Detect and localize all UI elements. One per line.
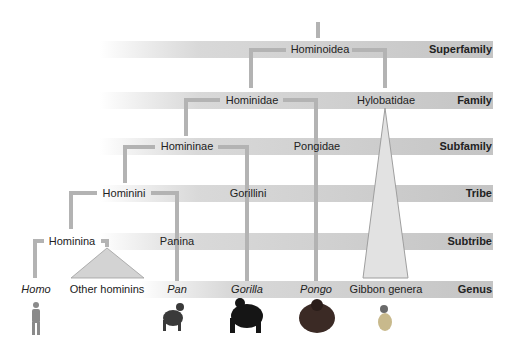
other-hominins-triangle [71,248,144,278]
taxon-gorillini: Gorillini [230,186,267,200]
rank-superfamily: Superfamily [429,42,492,56]
pan-figure [163,303,184,331]
rank-subtribe: Subtribe [447,234,492,248]
rank-subfamily: Subfamily [439,139,492,153]
genus-gorilla: Gorilla [231,282,263,296]
gibbon-figure [378,305,392,331]
gorilla-figure [230,298,263,333]
genus-pan: Pan [167,282,187,296]
taxon-hominidae: Hominidae [226,93,279,107]
genus-homo: Homo [21,282,50,296]
taxon-hominoidea: Hominoidea [291,42,350,56]
taxon-hominina: Hominina [49,234,95,248]
taxon-pongidae: Pongidae [294,139,341,153]
hominoid-classification-diagram: Hominoidea Hominidae Hylobatidae Hominin… [0,0,515,359]
taxon-panina: Panina [160,234,194,248]
pongo-figure [299,299,335,333]
genus-other-hominins: Other hominins [70,282,145,296]
taxon-hylobatidae: Hylobatidae [357,93,415,107]
homo-figure [32,302,40,335]
rank-tribe: Tribe [466,186,492,200]
genus-pongo: Pongo [300,282,332,296]
taxon-homininae: Homininae [161,139,214,153]
rank-genus: Genus [458,282,492,296]
rank-family: Family [457,93,492,107]
taxon-hominini: Hominini [103,186,146,200]
genus-gibbon-genera: Gibbon genera [350,282,423,296]
